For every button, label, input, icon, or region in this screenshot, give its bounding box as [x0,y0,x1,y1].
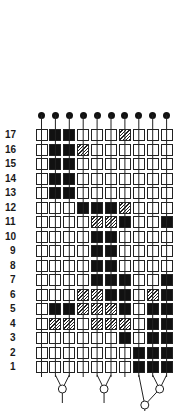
connector-lines [0,0,186,411]
